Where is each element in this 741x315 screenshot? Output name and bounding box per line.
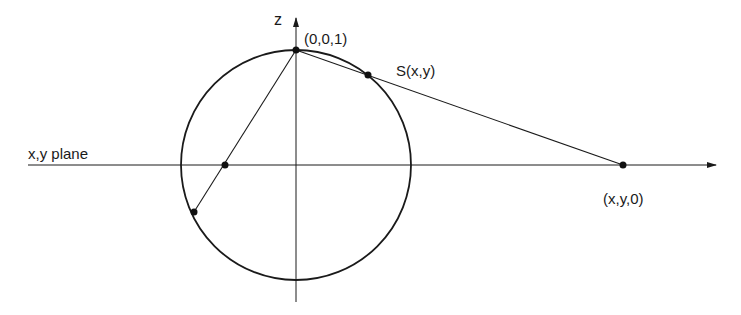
z-axis-label: z [274,12,282,28]
plane-point-label: (x,y,0) [603,191,644,206]
projection-line-left [194,50,296,212]
north-pole-label: (0,0,1) [304,31,347,46]
inner-plane-point [222,162,229,169]
plane-label: x,y plane [28,146,88,161]
stereographic-projection-diagram [0,0,741,315]
sphere-point-s [365,72,372,79]
north-pole-point [293,47,300,54]
sphere-point-label: S(x,y) [396,63,435,78]
projection-line-right [296,50,623,165]
lower-sphere-point [191,209,198,216]
plane-point [620,162,627,169]
